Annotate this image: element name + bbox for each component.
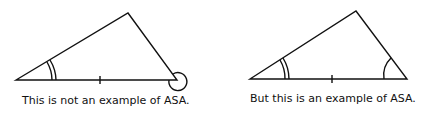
angle-arc-single — [384, 58, 391, 79]
triangle-not-asa — [16, 13, 187, 91]
triangle-asa — [250, 11, 407, 83]
triangle-outline — [250, 11, 407, 79]
triangle-outline — [16, 13, 177, 80]
angle-arc-inner — [47, 62, 52, 80]
caption-asa: But this is an example of ASA. — [250, 92, 416, 105]
caption-not-asa: This is not an example of ASA. — [22, 94, 189, 107]
reflex-angle-loop — [169, 73, 187, 91]
angle-arc-inner — [280, 60, 285, 79]
